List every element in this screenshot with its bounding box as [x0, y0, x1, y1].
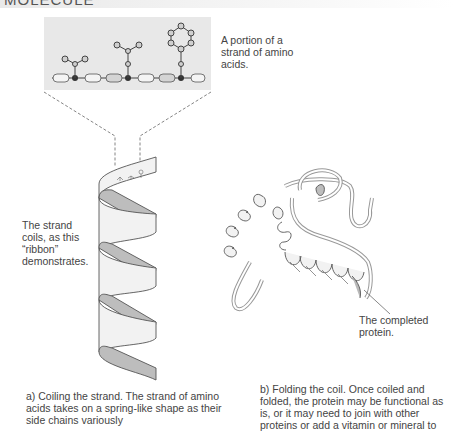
label-amino-acid-strand: A portion of a strand of amino acids. — [221, 34, 311, 70]
folded-protein — [224, 170, 372, 309]
completed-protein-leader — [364, 290, 390, 314]
helix-ribbon — [99, 157, 156, 380]
caption-coiling: a) Coiling the strand. The strand of ami… — [26, 390, 226, 426]
label-strand-coils: The strand coils, as this “ribbon” demon… — [22, 219, 92, 267]
label-completed-protein: The completed protein. — [359, 314, 439, 338]
zoom-guide-lines — [44, 92, 211, 167]
caption-folding: b) Folding the coil. Once coiled and fol… — [260, 383, 450, 431]
amino-acid-strand-inset — [44, 17, 211, 90]
